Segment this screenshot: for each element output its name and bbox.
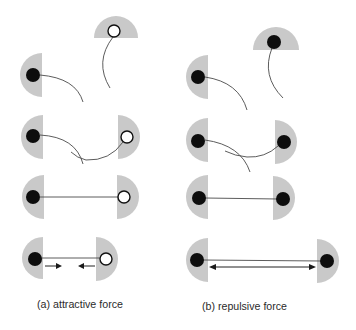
filled-particle-icon — [26, 190, 40, 204]
filled-particle-icon — [276, 192, 290, 206]
tether-curve — [225, 146, 278, 157]
stage-entangled-b — [186, 118, 297, 172]
stage-separate-a — [20, 16, 138, 102]
filled-particle-icon — [192, 191, 206, 205]
stage-connected-a — [22, 175, 139, 219]
filled-particle-icon — [26, 68, 40, 82]
filled-particle-icon — [26, 129, 40, 143]
filled-particle-icon — [190, 253, 204, 267]
tether-curve — [205, 140, 250, 172]
stage-connected-b — [186, 175, 295, 220]
tether-curve — [205, 77, 247, 110]
caption-repulsive: (b) repulsive force — [202, 300, 287, 312]
tether-curve — [103, 37, 113, 88]
filled-particle-icon — [191, 134, 205, 148]
hollow-particle-icon — [108, 25, 120, 37]
hollow-particle-icon — [121, 131, 133, 143]
tether-curve — [40, 75, 83, 102]
double-arrow-icon — [209, 264, 316, 270]
tether-curve — [268, 48, 283, 98]
filled-particle-icon — [267, 35, 281, 49]
filled-particle-icon — [191, 70, 205, 84]
hollow-particle-icon — [118, 191, 130, 203]
force-diagram: (a) attractive force — [0, 0, 356, 330]
tether-curve — [71, 142, 123, 160]
tether-curve — [40, 135, 83, 164]
hollow-particle-icon — [100, 253, 112, 265]
panel-attractive: (a) attractive force — [20, 16, 140, 310]
tether-line — [203, 260, 322, 261]
stage-separate-b — [186, 27, 299, 110]
filled-particle-icon — [28, 252, 42, 266]
filled-particle-icon — [320, 254, 334, 268]
arrow-right-icon — [45, 263, 62, 269]
stage-force-a — [22, 237, 118, 281]
panel-repulsive: (b) repulsive force — [186, 27, 339, 312]
arrow-left-icon — [78, 263, 95, 269]
filled-particle-icon — [277, 135, 291, 149]
tether-line — [205, 198, 278, 199]
stage-force-b — [186, 238, 339, 283]
stage-entangled-a — [21, 115, 140, 164]
caption-attractive: (a) attractive force — [37, 298, 123, 310]
